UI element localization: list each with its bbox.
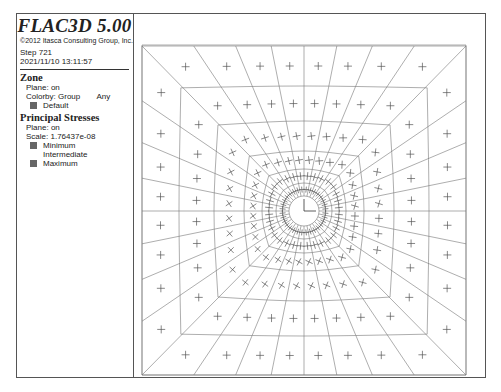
ps-intermediate: Intermediate xyxy=(16,150,133,159)
zone-colorby: Colorby: Group Any xyxy=(16,92,133,101)
timestamp: 2021/11/10 13:11:57 xyxy=(16,57,133,66)
model-viewport[interactable] xyxy=(134,13,486,378)
ps-plane: Plane: on xyxy=(16,123,133,132)
ps-intermediate-label: Intermediate xyxy=(43,150,87,159)
ps-scale: Scale: 1.76437e-08 xyxy=(16,132,133,141)
legend-panel: FLAC3D 5.00 ©2012 Itasca Consulting Grou… xyxy=(16,13,134,378)
color-swatch-icon xyxy=(30,142,37,149)
zone-group-default: Default xyxy=(16,101,133,110)
zone-heading: Zone xyxy=(16,72,133,83)
ps-minimum-label: Minimum xyxy=(43,141,75,150)
legend-divider xyxy=(20,69,129,70)
principal-stresses-heading: Principal Stresses xyxy=(16,112,133,123)
zone-group-label: Default xyxy=(43,101,68,110)
app-title: FLAC3D 5.00 xyxy=(16,15,133,37)
mesh-plot xyxy=(134,13,486,378)
step-label: Step 721 xyxy=(16,48,133,57)
color-swatch-icon xyxy=(30,160,37,167)
copyright: ©2012 Itasca Consulting Group, Inc. xyxy=(16,37,133,44)
ps-minimum: Minimum xyxy=(16,141,133,150)
ps-maximum-label: Maximum xyxy=(43,159,78,168)
zone-colorby-label: Colorby: Group xyxy=(26,92,80,101)
zone-plane: Plane: on xyxy=(16,83,133,92)
zone-colorby-scope: Any xyxy=(96,92,110,101)
ps-maximum: Maximum xyxy=(16,159,133,168)
color-swatch-icon xyxy=(30,102,37,109)
